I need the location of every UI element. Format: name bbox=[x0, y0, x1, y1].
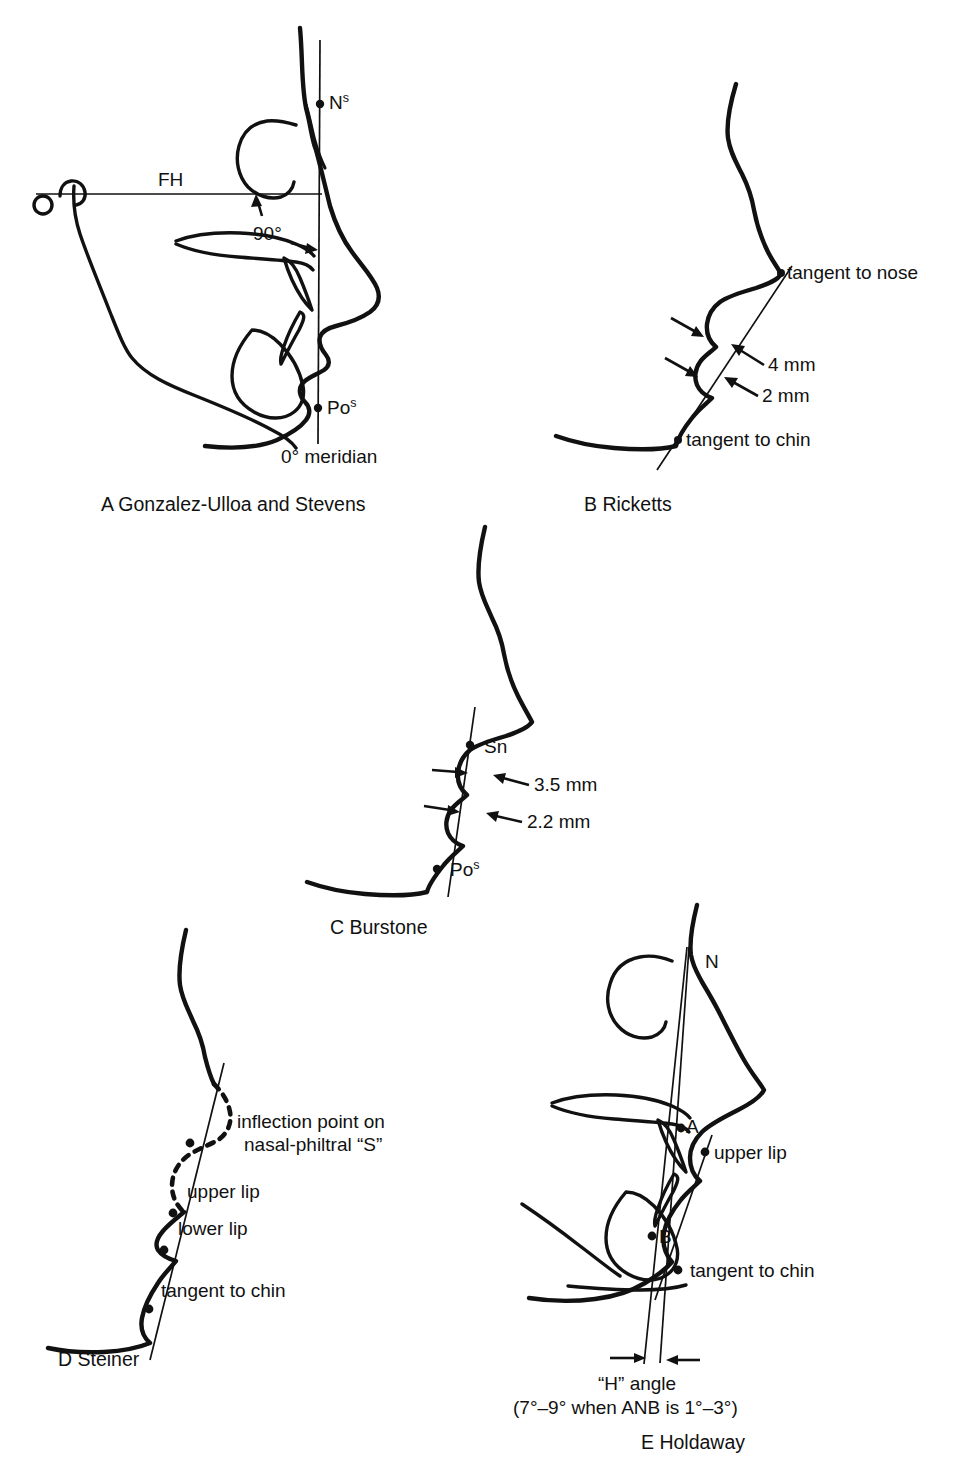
panel-e-caption: E Holdaway bbox=[641, 1431, 745, 1453]
panel-e-holdaway: N A B upper lip tangent to chin “H” angl… bbox=[513, 905, 815, 1453]
panel-b-lower-lip-arrow bbox=[665, 358, 698, 377]
panel-e-label-point-a: A bbox=[686, 1116, 699, 1137]
panel-a-label-fh: FH bbox=[158, 169, 183, 190]
panel-d-label-lower-lip: lower lip bbox=[178, 1218, 248, 1239]
panel-b-chin-point bbox=[674, 436, 682, 444]
panel-d-label-upper-lip: upper lip bbox=[187, 1181, 260, 1202]
panel-a-caption: A Gonzalez-Ulloa and Stevens bbox=[101, 493, 366, 515]
panel-e-orbital-outline bbox=[608, 956, 672, 1038]
panel-c-label-subnasale: Sn bbox=[484, 736, 507, 757]
panel-e-label-h-angle: “H” angle bbox=[598, 1373, 676, 1394]
panel-b-ricketts: tangent to nose 4 mm 2 mm tangent to chi… bbox=[556, 84, 918, 515]
panel-e-h-angle-left-arrow bbox=[610, 1353, 646, 1363]
panel-b-4mm-arrow bbox=[731, 344, 764, 365]
panel-c-label-22mm: 2.2 mm bbox=[527, 811, 590, 832]
panel-a-soft-tissue-profile bbox=[205, 28, 379, 448]
panel-a-fh-arrow bbox=[251, 194, 262, 216]
panel-e-point-b bbox=[648, 1232, 657, 1241]
panel-c-label-35mm: 3.5 mm bbox=[534, 774, 597, 795]
panel-e-label-nasion: N bbox=[705, 951, 719, 972]
panel-b-label-tangent-chin: tangent to chin bbox=[686, 429, 811, 450]
panel-e-h-angle-right-arrow bbox=[666, 1355, 700, 1365]
panel-c-caption: C Burstone bbox=[330, 916, 428, 938]
panel-b-label-tangent-nose: tangent to nose bbox=[787, 262, 918, 283]
panel-e-label-tangent-chin: tangent to chin bbox=[690, 1260, 815, 1281]
panel-b-2mm-arrow bbox=[724, 377, 758, 396]
panel-d-caption: D Steiner bbox=[58, 1348, 140, 1370]
panel-e-label-h-angle-range: (7°–9° when ANB is 1°–3°) bbox=[513, 1397, 738, 1418]
panel-b-label-4mm: 4 mm bbox=[768, 354, 816, 375]
panel-e-label-upper-lip: upper lip bbox=[714, 1142, 787, 1163]
panel-c-35mm-arrow bbox=[493, 773, 529, 785]
panel-b-nose-tip-point bbox=[777, 269, 785, 277]
panel-d-lower-lip-point bbox=[160, 1246, 169, 1255]
panel-a-nasal-dorsum-detail bbox=[306, 105, 325, 168]
panel-d-steiner: inflection point on nasal-philtral “S” u… bbox=[48, 930, 385, 1370]
panel-a-label-angle: 90° bbox=[253, 223, 282, 244]
panel-e-label-point-b: B bbox=[659, 1226, 672, 1247]
panel-c-upper-lip-arrow bbox=[432, 767, 468, 778]
panel-c-label-pogonion: Pos bbox=[450, 858, 480, 880]
panel-d-label-tangent-chin: tangent to chin bbox=[161, 1280, 286, 1301]
panel-a-pogonion-point bbox=[314, 404, 322, 412]
panel-e-upper-lip-point bbox=[701, 1148, 710, 1157]
panel-c-pogonion-point bbox=[433, 865, 441, 873]
panel-a-label-meridian: 0° meridian bbox=[281, 446, 377, 467]
panel-d-chin-point bbox=[145, 1305, 154, 1314]
panel-e-nb-line bbox=[660, 947, 689, 1363]
panel-e-point-a bbox=[677, 1124, 686, 1133]
panel-e-chin-point bbox=[674, 1266, 683, 1275]
panel-c-22mm-arrow bbox=[486, 811, 522, 822]
panel-a-label-pogonion: Pos bbox=[327, 396, 357, 418]
panel-d-s-line bbox=[150, 1063, 224, 1360]
panel-d-upper-profile bbox=[179, 930, 214, 1084]
panel-c-burstone: Sn 3.5 mm 2.2 mm Pos C Burstone bbox=[307, 527, 597, 938]
panel-d-label-inflection-line2: nasal-philtral “S” bbox=[244, 1134, 382, 1155]
panel-a-porion-circle bbox=[34, 196, 52, 214]
panel-a-orbital-outline bbox=[237, 121, 296, 198]
panel-d-label-inflection-line1: inflection point on bbox=[237, 1111, 385, 1132]
panel-b-upper-lip-arrow bbox=[671, 318, 704, 337]
panel-b-soft-tissue-profile bbox=[556, 84, 781, 449]
panel-c-subnasale-point bbox=[466, 741, 474, 749]
panel-a-gonzalez-ulloa-stevens: Ns FH 90° Pos 0° meridian A Gonzalez-Ull… bbox=[34, 28, 379, 515]
panel-e-mandible-lower-border bbox=[568, 1285, 686, 1290]
panel-d-upper-lip-point bbox=[169, 1209, 178, 1218]
cephalometric-figure: Ns FH 90° Pos 0° meridian A Gonzalez-Ull… bbox=[0, 0, 961, 1468]
panel-a-nasion-point bbox=[316, 100, 324, 108]
panel-b-caption: B Ricketts bbox=[584, 493, 672, 515]
panel-a-label-nasion: Ns bbox=[329, 91, 349, 113]
panel-c-soft-tissue-profile bbox=[307, 527, 532, 895]
panel-d-inflection-point bbox=[186, 1139, 195, 1148]
panel-e-soft-tissue-profile bbox=[529, 905, 764, 1301]
panel-b-label-2mm: 2 mm bbox=[762, 385, 810, 406]
